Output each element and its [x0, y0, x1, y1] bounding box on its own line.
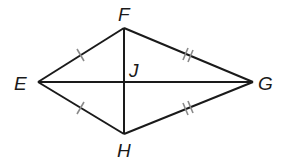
vertex-label-f: F — [118, 4, 131, 25]
vertex-label-e: E — [14, 73, 27, 94]
intersection-label-j: J — [128, 60, 139, 81]
kite-diagram: F E G H J — [0, 0, 290, 160]
tick-mark-ef — [77, 49, 84, 61]
vertex-label-g: G — [258, 73, 273, 94]
vertex-label-h: H — [117, 140, 131, 160]
segment-gh — [124, 82, 253, 134]
tick-mark-eh — [77, 102, 84, 114]
segment-fg — [124, 28, 253, 82]
